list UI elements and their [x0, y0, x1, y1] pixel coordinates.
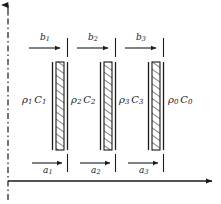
a3-subscript: 3 [144, 168, 148, 176]
figure-canvas: ρ1C1 ρ2C2 ρ3C3 ρ0C0 b1 b2 b3 a1 a2 a3 [0, 0, 221, 204]
medium-1-rho-sub: 1 [28, 98, 33, 106]
medium-1-rho: ρ [22, 94, 28, 105]
a1-subscript: 1 [48, 168, 52, 176]
medium-0-rho-sub: 0 [174, 98, 179, 106]
barrier-layer-2 [101, 62, 116, 150]
medium-3-rho-sub: 3 [125, 98, 130, 106]
medium-1-c-sub: 1 [42, 98, 47, 106]
medium-3-rho: ρ [119, 94, 125, 105]
medium-label-3: ρ3C3 [119, 95, 143, 106]
dimension-label-a3: a3 [139, 166, 149, 176]
b2-subscript: 2 [94, 35, 98, 43]
medium-label-1: ρ1C1 [22, 95, 46, 106]
medium-3-c: C [131, 94, 139, 105]
medium-2-c: C [83, 94, 91, 105]
medium-2-rho: ρ [71, 94, 77, 105]
medium-0-rho: ρ [168, 94, 174, 105]
medium-2-c-sub: 2 [91, 98, 96, 106]
medium-1-c: C [34, 94, 42, 105]
medium-3-c-sub: 3 [139, 98, 144, 106]
medium-2-rho-sub: 2 [77, 98, 82, 106]
b1-subscript: 1 [46, 35, 50, 43]
dimension-label-a1: a1 [43, 166, 53, 176]
dimension-label-b1: b1 [40, 33, 50, 43]
barrier-layer-3 [149, 62, 164, 150]
dimension-label-b3: b3 [136, 33, 146, 43]
medium-0-c-sub: 0 [188, 98, 193, 106]
medium-label-2: ρ2C2 [71, 95, 95, 106]
dimension-label-a2: a2 [91, 166, 101, 176]
dimension-label-b2: b2 [88, 33, 98, 43]
medium-label-0: ρ0C0 [168, 95, 192, 106]
medium-0-c: C [180, 94, 188, 105]
barrier-layer-1 [53, 62, 68, 150]
a2-subscript: 2 [96, 168, 100, 176]
b3-subscript: 3 [142, 35, 146, 43]
